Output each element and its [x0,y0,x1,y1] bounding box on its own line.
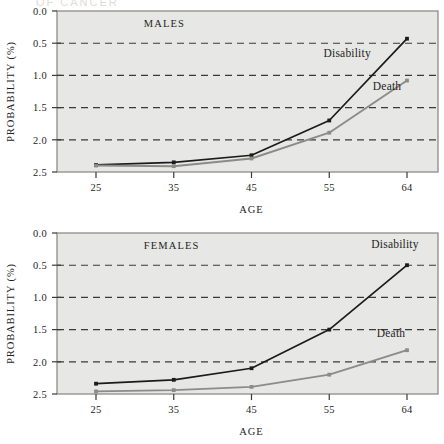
series-label-death: Death [373,80,402,92]
panel-title: FEMALES [144,240,200,251]
panel-title: MALES [144,18,185,29]
y-tick-label: 2.0 [33,135,47,146]
y-tick-label: 2.0 [33,357,47,368]
x-tick-label: 35 [168,404,179,415]
data-point-death [250,385,254,389]
y-tick-label: 0.5 [33,260,47,271]
x-tick-label: 64 [401,404,413,415]
y-tick-label: 0.5 [33,38,47,49]
chart-canvas-females: 2.52.01.51.00.50.02535455564AGEPROBABILI… [0,222,444,444]
x-tick-label: 45 [246,404,257,415]
x-tick-label: 45 [246,182,257,193]
data-point-death [172,164,176,168]
y-tick-label: 0.0 [33,228,47,239]
x-tick-label: 25 [90,182,101,193]
data-point-death [94,390,98,394]
y-tick-label: 1.5 [33,102,47,113]
data-point-disability [172,160,176,164]
y-axis-title: PROBABILITY (%) [5,263,17,364]
x-axis-title: AGE [239,204,263,215]
y-tick-label: 1.5 [33,324,47,335]
figure-root: OF CANCER 2.52.01.51.00.50.02535455564AG… [0,0,444,444]
series-label-disability: Disability [324,47,371,60]
y-tick-label: 2.5 [33,389,47,400]
data-point-death [405,79,409,83]
x-axis-title: AGE [239,426,263,437]
data-point-disability [327,328,331,332]
data-point-disability [327,119,331,123]
data-point-death [327,373,331,377]
data-point-disability [405,37,409,41]
series-label-death: Death [377,327,406,339]
plot-background [57,233,438,394]
data-point-death [172,388,176,392]
y-axis-title: PROBABILITY (%) [5,41,17,142]
y-tick-label: 0.0 [33,6,47,17]
data-point-death [94,164,98,168]
series-label-disability: Disability [371,238,418,251]
data-point-death [327,131,331,135]
data-point-disability [405,263,409,267]
x-tick-label: 35 [168,182,179,193]
chart-canvas-males: 2.52.01.51.00.50.02535455564AGEPROBABILI… [0,0,444,222]
y-tick-label: 1.0 [33,292,47,303]
data-point-disability [94,382,98,386]
y-tick-label: 1.0 [33,70,47,81]
chart-panel-males: 2.52.01.51.00.50.02535455564AGEPROBABILI… [0,0,444,222]
data-point-disability [250,366,254,370]
x-tick-label: 25 [90,404,101,415]
chart-panel-females: 2.52.01.51.00.50.02535455564AGEPROBABILI… [0,222,444,444]
y-tick-label: 2.5 [33,167,47,178]
data-point-disability [172,378,176,382]
data-point-death [250,157,254,161]
x-tick-label: 64 [401,182,413,193]
data-point-death [405,348,409,352]
x-tick-label: 55 [324,404,335,415]
x-tick-label: 55 [324,182,335,193]
